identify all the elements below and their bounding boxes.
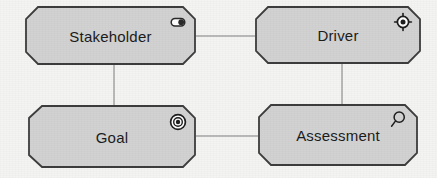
edge-stakeholder-goal[interactable] bbox=[113, 65, 115, 106]
edge-stakeholder-driver[interactable] bbox=[196, 35, 255, 37]
node-assessment[interactable]: Assessment bbox=[258, 104, 418, 166]
node-label-stakeholder: Stakeholder bbox=[25, 27, 196, 44]
node-goal[interactable]: Goal bbox=[28, 105, 196, 168]
node-driver[interactable]: Driver bbox=[255, 6, 421, 64]
node-label-goal: Goal bbox=[28, 128, 196, 145]
diagram-canvas: Stakeholder Driver bbox=[0, 0, 437, 178]
edge-driver-assessment[interactable] bbox=[341, 64, 343, 105]
node-stakeholder[interactable]: Stakeholder bbox=[25, 6, 196, 65]
edge-goal-assessment[interactable] bbox=[196, 135, 258, 137]
node-label-driver: Driver bbox=[255, 27, 421, 44]
node-label-assessment: Assessment bbox=[258, 127, 418, 144]
